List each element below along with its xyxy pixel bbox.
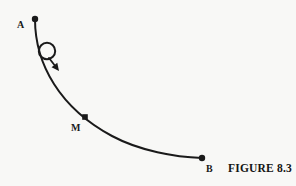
point-a-marker	[32, 16, 38, 22]
figure-container: A M B FIGURE 8.3	[0, 0, 296, 186]
point-m-marker	[82, 114, 88, 120]
point-b-marker	[199, 155, 205, 161]
descent-curve	[35, 19, 202, 158]
diagram-canvas	[0, 0, 296, 186]
point-a-label: A	[17, 20, 24, 30]
direction-arrow-icon	[49, 58, 59, 71]
figure-caption: FIGURE 8.3	[228, 162, 292, 174]
point-b-label: B	[206, 164, 213, 174]
ball-icon	[39, 43, 55, 59]
point-m-label: M	[71, 123, 80, 133]
